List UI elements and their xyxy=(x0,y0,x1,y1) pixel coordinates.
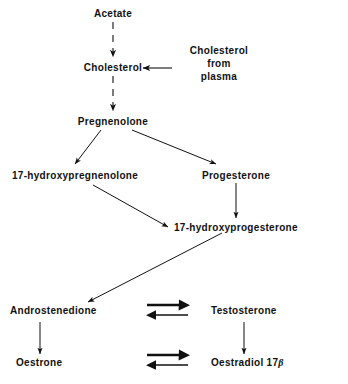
pathway-arrows-layer xyxy=(0,0,348,384)
steroidogenesis-pathway-diagram: Acetate Cholesterol Cholesterol from pla… xyxy=(0,0,348,384)
oestradiol-label-text: Oestradiol 17 xyxy=(211,357,278,368)
edge-hydroxyprogesterone-to-androstenedione xyxy=(88,233,222,302)
edge-pregnenolone-to-progesterone xyxy=(132,130,216,164)
cholesterol-from-plasma-line-1: Cholesterol xyxy=(190,44,248,57)
node-cholesterol: Cholesterol xyxy=(84,62,142,74)
node-cholesterol-from-plasma: Cholesterol from plasma xyxy=(190,44,248,83)
edge-androstenedione-testosterone-equilibrium xyxy=(146,300,190,320)
node-17-hydroxypregnenolone: 17-hydroxypregnenolone xyxy=(12,170,138,182)
node-oestrone: Oestrone xyxy=(16,357,62,369)
edge-oestrone-oestradiol-equilibrium xyxy=(146,350,190,370)
node-pregnenolone: Pregnenolone xyxy=(78,116,148,128)
node-testosterone: Testosterone xyxy=(211,305,277,317)
edge-hydroxypregnenolone-to-hydroxyprogesterone xyxy=(93,185,168,227)
beta-symbol: β xyxy=(278,357,283,368)
edge-pregnenolone-to-hydroxypregnenolone xyxy=(75,130,101,164)
cholesterol-from-plasma-line-3: plasma xyxy=(190,70,248,83)
node-progesterone: Progesterone xyxy=(202,170,270,182)
node-oestradiol-17-beta: Oestradiol 17β xyxy=(211,357,284,369)
cholesterol-from-plasma-line-2: from xyxy=(190,57,248,70)
node-androstenedione: Androstenedione xyxy=(10,305,97,317)
node-17-hydroxyprogesterone: 17-hydroxyprogesterone xyxy=(174,222,298,234)
node-acetate: Acetate xyxy=(94,8,132,20)
